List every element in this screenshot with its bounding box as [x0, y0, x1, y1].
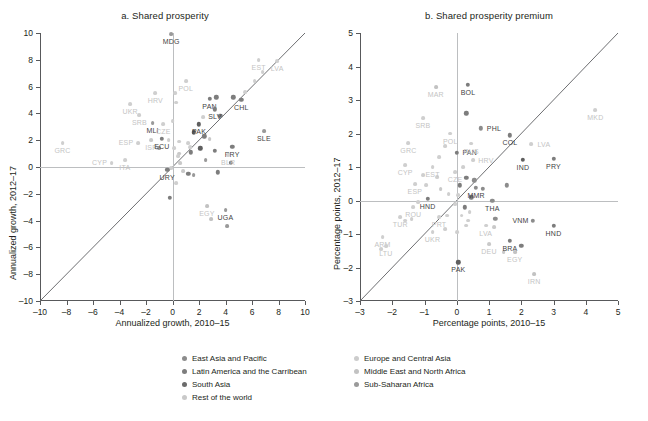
scatter-point-label: MKD: [587, 114, 603, 121]
y-tick-label: 2: [28, 135, 33, 145]
scatter-point: [230, 145, 234, 149]
x-tick: [457, 301, 458, 305]
scatter-point: [551, 156, 555, 160]
scatter-point: [464, 111, 468, 115]
y-tick-label: –1: [344, 229, 353, 239]
x-tick-label: –3: [355, 307, 364, 317]
x-tick: [554, 301, 555, 305]
x-tick-label: –10: [33, 307, 47, 317]
panel-b-y-axis-title: Percentage points, 2012–17: [332, 157, 342, 270]
legend-item-label: Sub-Saharan Africa: [364, 381, 433, 389]
scatter-point: [505, 183, 509, 187]
scatter-point: [551, 223, 555, 227]
scatter-point: [253, 79, 257, 83]
y-tick-label: 8: [28, 55, 33, 65]
x-tick-label: 2: [197, 307, 202, 317]
scatter-point: [205, 204, 209, 208]
y-tick-label: –3: [344, 296, 353, 306]
y-tick-label: –10: [19, 296, 33, 306]
scatter-point: [128, 102, 132, 106]
x-tick: [120, 301, 121, 305]
scatter-point-label: GRC: [400, 147, 416, 154]
scatter-point: [434, 85, 438, 89]
scatter-point: [188, 145, 192, 149]
x-tick-label: 5: [616, 307, 621, 317]
scatter-point: [529, 142, 533, 146]
legend-item-label: East Asia and Pacific: [192, 355, 267, 363]
x-tick: [618, 301, 619, 305]
legend-item-mena[interactable]: Middle East and North Africa: [354, 365, 465, 378]
y-tick-label: 1: [348, 162, 353, 172]
scatter-point-label: SLV: [208, 113, 221, 120]
y-tick-label: –2: [24, 189, 33, 199]
scatter-point: [530, 218, 534, 222]
scatter-point: [455, 151, 459, 155]
scatter-point-label: EST: [425, 171, 439, 178]
scatter-point: [466, 83, 470, 87]
scatter-point: [465, 224, 469, 228]
y-tick-label: –8: [24, 269, 33, 279]
scatter-point-label: PAK: [192, 128, 206, 135]
scatter-point: [461, 165, 465, 169]
scatter-point-label: UKR: [425, 236, 440, 243]
scatter-point: [169, 32, 173, 36]
scatter-point-label: ROU: [405, 211, 421, 218]
x-tick: [199, 301, 200, 305]
legend-item-lac[interactable]: Latin America and the Carribean: [182, 365, 307, 378]
scatter-point: [179, 161, 183, 165]
scatter-point: [492, 225, 496, 229]
legend-item-eca[interactable]: Europe and Central Asia: [354, 352, 465, 365]
legend-item-row[interactable]: Rest of the world: [182, 391, 307, 404]
scatter-point: [184, 79, 188, 83]
legend-item-ssa[interactable]: Sub-Saharan Africa: [354, 378, 465, 391]
scatter-point: [123, 158, 127, 162]
scatter-point: [226, 153, 230, 157]
scatter-point: [153, 91, 157, 95]
scatter-point: [198, 146, 202, 150]
legend-marker-icon: [182, 356, 187, 361]
scatter-point-label: COL: [502, 139, 517, 146]
scatter-point: [160, 137, 164, 141]
x-tick-label: –2: [388, 307, 397, 317]
scatter-point-label: PRT: [432, 221, 446, 228]
scatter-point-label: URY: [160, 174, 175, 181]
y-tick: [36, 247, 40, 248]
y-tick: [36, 60, 40, 61]
figure-container: a. Shared prosperity –10–8–6–4–20246810–…: [0, 0, 648, 421]
scatter-point: [207, 96, 211, 100]
panel-b-x-axis-title: Percentage points, 2010–15: [360, 318, 618, 328]
scatter-point-label: CZE: [448, 176, 463, 183]
scatter-point-label: ARM: [374, 241, 390, 248]
scatter-point: [594, 108, 598, 112]
scatter-point: [439, 187, 443, 191]
scatter-point: [201, 116, 205, 120]
scatter-point: [437, 215, 441, 219]
panel-a-y-axis-title: Annualized growth, 2012–17: [8, 166, 18, 280]
scatter-point: [214, 95, 218, 99]
y-tick: [36, 140, 40, 141]
x-tick-label: 2: [519, 307, 524, 317]
scatter-point: [453, 170, 457, 174]
scatter-point-label: THA: [485, 205, 500, 212]
scatter-point-label: LVA: [538, 141, 551, 148]
scatter-point-label: ITA: [119, 164, 130, 171]
scatter-point: [167, 138, 171, 142]
scatter-point: [480, 187, 484, 191]
legend-item-sa[interactable]: South Asia: [182, 378, 307, 391]
scatter-point: [424, 184, 428, 188]
scatter-point: [137, 113, 141, 117]
scatter-point: [384, 244, 388, 248]
scatter-point-label: PRY: [546, 163, 561, 170]
y-tick: [36, 274, 40, 275]
scatter-point: [177, 140, 181, 144]
scatter-point: [243, 90, 247, 94]
scatter-point-label: IND: [517, 164, 530, 171]
scatter-point: [474, 186, 478, 190]
scatter-point: [456, 194, 460, 198]
legend-column-1: East Asia and PacificLatin America and t…: [182, 352, 307, 404]
scatter-point: [262, 129, 266, 133]
scatter-point-label: TUR: [393, 221, 408, 228]
legend-item-eap[interactable]: East Asia and Pacific: [182, 352, 307, 365]
scatter-point: [508, 133, 512, 137]
scatter-point: [208, 137, 212, 141]
